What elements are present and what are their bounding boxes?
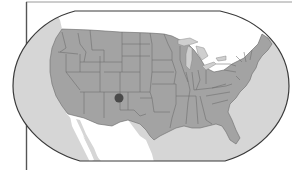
location-marker-dot[interactable] bbox=[115, 94, 124, 103]
us-map-svg bbox=[0, 0, 306, 170]
map-figure bbox=[0, 0, 306, 170]
